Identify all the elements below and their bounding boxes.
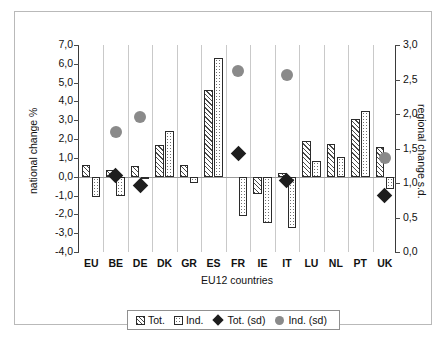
- x-axis-label-de: DE: [128, 257, 152, 269]
- x-axis-label-uk: UK: [373, 257, 397, 269]
- bar-tot-es: [204, 90, 213, 177]
- category-separator: [177, 45, 178, 252]
- chart-frame: national change % regional change s.d. E…: [14, 11, 432, 325]
- plot-area: 7,06,05,04,03,02,01,00,0-1,0-2,0-3,0-4,0…: [78, 45, 396, 252]
- y-axis-label-left: 7,0: [27, 39, 73, 49]
- category-separator: [103, 45, 104, 252]
- y-axis-tick-left: [74, 233, 79, 234]
- y-axis-label-left: 0,0: [27, 171, 73, 181]
- y-axis-label-right: 1,5: [403, 143, 447, 153]
- y-axis-label-right: 3,0: [403, 39, 447, 49]
- marker-tot-sd-fr: [230, 146, 246, 162]
- legend-item-tot: Tot.: [136, 314, 165, 326]
- x-axis-label-ie: IE: [250, 257, 274, 269]
- bar-ind-lu: [312, 161, 321, 177]
- y-axis-tick-left: [74, 83, 79, 84]
- bar-tot-de: [131, 166, 140, 176]
- bar-ind-eu: [92, 177, 101, 198]
- y-axis-label-left: 4,0: [27, 95, 73, 105]
- y-axis-label-left: -1,0: [27, 190, 73, 200]
- x-axis-label-lu: LU: [299, 257, 323, 269]
- marker-ind-sd-it: [281, 69, 293, 81]
- bar-tot-eu: [82, 165, 91, 176]
- legend-item-ind-sd: Ind. (sd): [274, 314, 327, 326]
- x-axis-label-nl: NL: [324, 257, 348, 269]
- x-axis-title: EU12 countries: [78, 274, 396, 286]
- category-separator: [275, 45, 276, 252]
- category-separator: [250, 45, 251, 252]
- marker-tot-sd-de: [132, 178, 148, 194]
- bar-ind-uk: [386, 177, 395, 189]
- y-axis-label-left: -4,0: [27, 246, 73, 256]
- bar-tot-gr: [180, 165, 189, 176]
- bar-ind-es: [214, 58, 223, 177]
- marker-ind-sd-be: [110, 126, 122, 138]
- x-axis-label-it: IT: [275, 257, 299, 269]
- bar-tot-ie: [253, 177, 262, 194]
- legend-item-tot-sd: Tot. (sd): [212, 314, 265, 326]
- x-axis-label-fr: FR: [226, 257, 250, 269]
- bar-ind-dk: [165, 131, 174, 177]
- bar-tot-dk: [155, 145, 164, 177]
- bar-tot-nl: [327, 144, 336, 177]
- category-separator: [201, 45, 202, 252]
- y-axis-tick-right: [395, 114, 400, 115]
- tot-swatch-icon: [136, 316, 145, 325]
- y-axis-tick-left: [74, 252, 79, 253]
- y-axis-tick-right: [395, 218, 400, 219]
- legend-label-tot-sd: Tot. (sd): [227, 314, 265, 326]
- y-axis-tick-left: [74, 139, 79, 140]
- bar-ind-pt: [361, 111, 370, 177]
- y-axis-label-left: 1,0: [27, 152, 73, 162]
- y-axis-tick-left: [74, 64, 79, 65]
- bar-tot-lu: [302, 141, 311, 177]
- legend-label-ind-sd: Ind. (sd): [288, 314, 327, 326]
- y-axis-tick-left: [74, 120, 79, 121]
- x-axis-label-eu: EU: [79, 257, 103, 269]
- y-axis-label-right: 0,0: [403, 246, 447, 256]
- bar-tot-pt: [351, 119, 360, 176]
- y-axis-tick-right: [395, 80, 400, 81]
- y-axis-tick-right: [395, 252, 400, 253]
- y-axis-label-left: 2,0: [27, 133, 73, 143]
- y-axis-tick-left: [74, 101, 79, 102]
- chart-legend: Tot. Ind. Tot. (sd) Ind. (sd): [127, 310, 340, 330]
- category-separator: [299, 45, 300, 252]
- marker-ind-sd-de: [134, 111, 146, 123]
- bar-ind-ie: [263, 177, 272, 223]
- x-axis-label-dk: DK: [153, 257, 177, 269]
- bar-ind-fr: [239, 177, 248, 217]
- x-axis-label-es: ES: [202, 257, 226, 269]
- y-axis-label-left: 5,0: [27, 77, 73, 87]
- y-axis-tick-left: [74, 214, 79, 215]
- marker-ind-sd-uk: [379, 152, 391, 164]
- bar-ind-nl: [337, 157, 346, 177]
- y-axis-tick-right: [395, 183, 400, 184]
- category-separator: [324, 45, 325, 252]
- x-axis-label-be: BE: [104, 257, 128, 269]
- y-axis-label-right: 1,0: [403, 177, 447, 187]
- y-axis-label-right: 0,5: [403, 212, 447, 222]
- y-axis-label-right: 2,5: [403, 74, 447, 84]
- category-separator: [348, 45, 349, 252]
- bar-ind-gr: [190, 177, 199, 184]
- legend-label-ind: Ind.: [186, 314, 204, 326]
- zero-line: [79, 177, 395, 178]
- y-axis-tick-right: [395, 149, 400, 150]
- ind-swatch-icon: [174, 316, 183, 325]
- category-separator: [128, 45, 129, 252]
- category-separator: [373, 45, 374, 252]
- category-separator: [152, 45, 153, 252]
- legend-label-tot: Tot.: [148, 314, 165, 326]
- x-axis-label-gr: GR: [177, 257, 201, 269]
- y-axis-label-left: -2,0: [27, 208, 73, 218]
- circle-marker-icon: [275, 316, 284, 325]
- x-axis-label-pt: PT: [348, 257, 372, 269]
- legend-item-ind: Ind.: [174, 314, 204, 326]
- y-axis-label-left: 3,0: [27, 114, 73, 124]
- diamond-marker-icon: [213, 314, 224, 325]
- y-axis-tick-left: [74, 158, 79, 159]
- y-axis-tick-left: [74, 196, 79, 197]
- y-axis-tick-right: [395, 45, 400, 46]
- y-axis-tick-left: [74, 45, 79, 46]
